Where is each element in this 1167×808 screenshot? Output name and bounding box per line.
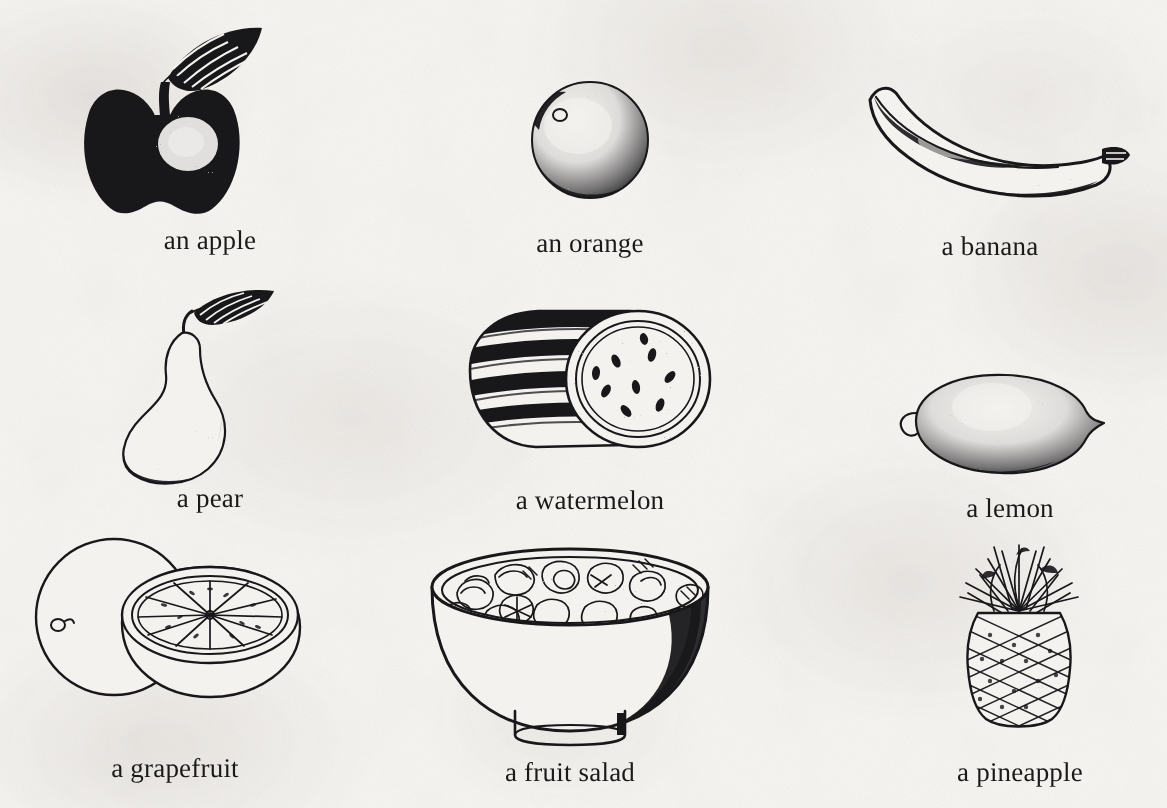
- vocab-label-pear: a pear: [60, 483, 360, 514]
- vocab-item-banana: a banana: [830, 45, 1150, 275]
- vocab-label-pineapple: a pineapple: [890, 757, 1150, 788]
- apple-leaf-icon: [168, 28, 262, 91]
- vocab-item-grapefruit: a grapefruit: [10, 535, 340, 800]
- vocab-label-watermelon: a watermelon: [420, 485, 760, 516]
- vocab-label-banana: a banana: [830, 231, 1150, 262]
- vocab-item-watermelon: a watermelon: [420, 295, 760, 530]
- pear-leaf-icon: [194, 290, 274, 325]
- vocab-label-fruit-salad: a fruit salad: [395, 757, 745, 788]
- vocab-item-pear: a pear: [60, 285, 360, 530]
- apple-illustration: [60, 20, 360, 225]
- grapefruit-illustration: [10, 535, 340, 745]
- vocab-label-lemon: a lemon: [880, 493, 1140, 524]
- vocabulary-page: an apple: [0, 0, 1167, 808]
- pear-illustration: [60, 285, 360, 485]
- fruit-salad-bowl-illustration: [395, 545, 745, 755]
- pineapple-illustration: [890, 535, 1150, 750]
- vocab-item-lemon: a lemon: [880, 345, 1140, 535]
- banana-illustration: [830, 45, 1150, 230]
- orange-illustration: [440, 60, 740, 225]
- vocab-item-fruit-salad: a fruit salad: [395, 545, 745, 800]
- watermelon-illustration: [420, 295, 760, 485]
- vocab-item-orange: an orange: [440, 60, 740, 275]
- vocab-label-orange: an orange: [440, 228, 740, 259]
- pineapple-crown-icon: [960, 545, 1078, 613]
- vocab-label-apple: an apple: [60, 225, 360, 256]
- vocab-item-pineapple: a pineapple: [890, 535, 1150, 800]
- vocab-label-grapefruit: a grapefruit: [10, 753, 340, 784]
- vocab-item-apple: an apple: [60, 20, 360, 270]
- lemon-illustration: [880, 345, 1140, 495]
